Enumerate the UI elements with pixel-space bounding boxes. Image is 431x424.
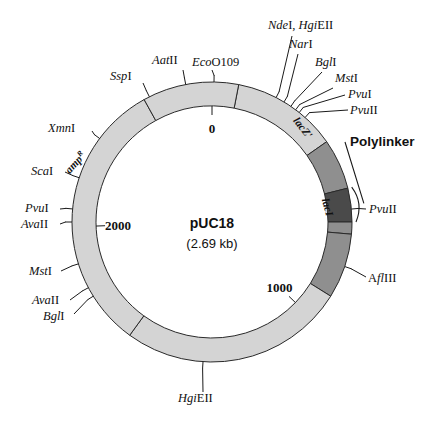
site-avaII-bl-leader (70, 291, 83, 300)
coord-marker-2000: 2000 (105, 218, 131, 233)
polylinker-label: Polylinker (350, 134, 415, 149)
site-xmnI: XmnI (47, 121, 75, 135)
site-pvuI-left: PvuI (24, 201, 49, 215)
site-avaII-bl: AvaII (31, 293, 59, 307)
site-avaII-bl-tick (82, 288, 88, 291)
lacI-segment (310, 232, 351, 296)
site-pvuII-top-tick (305, 112, 310, 117)
site-ecoO109-leader (212, 70, 214, 76)
backbone-right (130, 283, 331, 362)
site-aflIII-leader (351, 269, 366, 277)
plasmid-name-label: pUC18 (190, 215, 235, 231)
site-sspI-leader (143, 83, 146, 91)
site-bglI-bl-tick (87, 296, 93, 300)
site-ndeI-hgiEII: NdeI, HgiEII (267, 18, 333, 32)
site-bglI-top-tick (291, 101, 295, 107)
site-aflIII: AflIII (368, 271, 396, 285)
site-ndeI-hgiEII-tick (276, 91, 279, 97)
site-bglI-bl: BglI (43, 309, 65, 323)
site-scaI-tick (73, 176, 80, 178)
site-pvuI-left-tick (66, 208, 73, 209)
site-mstI-top: MstI (334, 71, 358, 85)
backbone-left (144, 82, 239, 121)
site-narI-tick (284, 96, 288, 102)
plasmid-map-canvas: 010002000 lacZ'lacIampR NdeI, HgiEIINarI… (0, 0, 431, 424)
site-avaII-left: AvaII (20, 217, 48, 231)
site-ecoO109: EcoO109 (191, 55, 239, 69)
plasmid-size-label: (2.69 kb) (186, 236, 237, 251)
site-sspI: SspI (110, 69, 132, 83)
coord-marker-1000: 1000 (267, 280, 293, 295)
site-pvuI-top-leader (303, 95, 345, 107)
site-pvuII-right-tick (351, 208, 358, 209)
site-mstI-left: MstI (28, 264, 52, 278)
site-xmnI-leader (92, 131, 94, 135)
plasmid-map-figure: 010002000 lacZ'lacIampR NdeI, HgiEIINarI… (0, 0, 431, 424)
site-mstI-left-leader (61, 266, 72, 271)
site-pvuI-left-leader (60, 208, 66, 209)
site-pvuI-top-tick (299, 107, 303, 112)
site-aatII-leader (183, 70, 184, 78)
site-xmnI-tick (94, 134, 100, 138)
backbone-top (234, 85, 327, 156)
site-pvuII-right: PvuII (368, 202, 397, 216)
site-scaI: ScaI (31, 164, 53, 178)
site-bglI-top-leader (295, 72, 322, 101)
site-avaII-left-leader (60, 222, 66, 224)
coord-marker-0: 0 (209, 121, 216, 136)
site-mstI-top-tick (296, 104, 300, 110)
site-sspI-tick (146, 91, 149, 97)
site-bglI-top: BglI (315, 55, 337, 69)
site-pvuII-top: PvuII (349, 103, 378, 117)
site-bglI-bl-leader (74, 300, 88, 314)
site-hgiEII-bottom: HgiEII (177, 391, 213, 405)
site-aflIII-tick (345, 267, 352, 269)
site-pvuII-top-leader (309, 110, 348, 113)
site-aatII: AatII (151, 53, 178, 67)
site-narI-leader (287, 54, 298, 96)
plasmid-center-caption: pUC18 (2.69 kb) (186, 215, 237, 251)
site-narI: NarI (288, 37, 313, 51)
coord-marker-1000-tick (289, 296, 295, 302)
site-aatII-tick (184, 78, 185, 85)
site-mstI-left-tick (72, 264, 79, 266)
site-pvuI-top: PvuI (347, 87, 372, 101)
